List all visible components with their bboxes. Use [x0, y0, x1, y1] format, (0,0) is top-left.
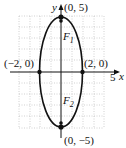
bottom-vertex-point — [58, 124, 63, 129]
focus-f2-point — [59, 121, 63, 125]
top-vertex-point — [58, 14, 63, 19]
y-axis-arrow-icon — [59, 4, 64, 10]
x-tick-label: 5 — [110, 71, 116, 83]
ellipse-figure: y x 5 (0, 5) (0, −5) (−2, 0) (2, 0) F1 F… — [0, 0, 126, 148]
bottom-vertex-label: (0, −5) — [64, 134, 94, 147]
right-covertex-label: (2, 0) — [84, 57, 108, 70]
left-covertex-label: (−2, 0) — [4, 57, 34, 70]
axes — [10, 6, 118, 138]
focus-f1-label: F1 — [62, 30, 74, 45]
x-axis-label: x — [118, 70, 124, 82]
left-covertex-point — [37, 70, 41, 74]
right-covertex-point — [80, 70, 84, 74]
top-vertex-label: (0, 5) — [64, 1, 88, 14]
focus-f1-point — [59, 19, 63, 23]
y-axis-label: y — [51, 1, 57, 13]
